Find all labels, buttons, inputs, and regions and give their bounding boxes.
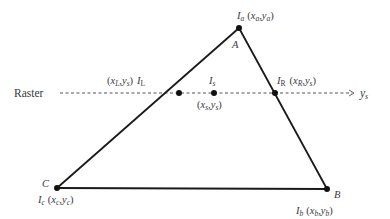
vertex-b-name: B	[334, 189, 341, 200]
scan-point-s-dot	[211, 90, 217, 96]
scan-point-left-dot	[176, 90, 182, 96]
vertex-a-label: Ia(xa,ya)	[236, 10, 274, 23]
vertex-b-dot	[324, 186, 330, 192]
edge-cb	[57, 188, 327, 189]
scan-point-left-label: (xL,ys)IL	[107, 75, 146, 88]
scan-point-right-label: IR(xR,ys)	[276, 75, 317, 88]
triangle	[57, 28, 327, 189]
vertex-c-dot	[54, 185, 60, 191]
vertex-a-name: A	[231, 39, 239, 50]
scanline-diagram: Raster ys A Ia(xa,ya) C Ic(xc,yc) B Ib(x…	[0, 0, 390, 219]
raster-line	[60, 90, 354, 96]
scan-point-right-dot	[272, 90, 278, 96]
scan-point-s-label: Is	[208, 75, 216, 88]
vertex-c-label: Ic(xc,yc)	[37, 194, 74, 207]
edge-ab	[239, 28, 327, 189]
raster-label: Raster	[14, 87, 44, 99]
vertex-b-label: Ib(xb,yb)	[295, 205, 333, 218]
vertex-a-dot	[236, 25, 242, 31]
raster-ys-label: ys	[359, 87, 368, 101]
vertex-c-name: C	[42, 178, 50, 189]
scan-point-s-coords: (xs,ys)	[197, 99, 222, 112]
